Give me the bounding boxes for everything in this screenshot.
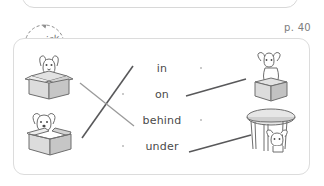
connector-dot-in-right[interactable]	[200, 67, 202, 69]
word-label-on: on	[155, 89, 169, 100]
page-number: p. 40	[284, 22, 311, 33]
word-label-behind: behind	[143, 115, 182, 126]
word-label-in: in	[157, 63, 167, 74]
connector-dot-under-left[interactable]	[122, 145, 124, 147]
picture-dog-in-open-box[interactable]	[19, 106, 81, 158]
word-label-under: under	[145, 141, 178, 152]
word-row-behind[interactable]: behind	[131, 107, 193, 133]
connector-dot-behind-right[interactable]	[200, 119, 202, 121]
connector-dot-on-left[interactable]	[122, 93, 124, 95]
picture-dog-under-table[interactable]	[240, 103, 302, 161]
previous-card-fragment	[22, 0, 298, 8]
word-row-under[interactable]: under	[131, 133, 193, 159]
word-row-in[interactable]: in	[131, 55, 193, 81]
word-list: in on behind under	[131, 55, 193, 159]
picture-dog-on-box[interactable]	[243, 50, 299, 104]
picture-dog-in-closed-box[interactable]	[19, 52, 79, 102]
worksheet-page: p. 40 Quick Check-Up	[0, 0, 324, 186]
word-row-on[interactable]: on	[131, 81, 193, 107]
